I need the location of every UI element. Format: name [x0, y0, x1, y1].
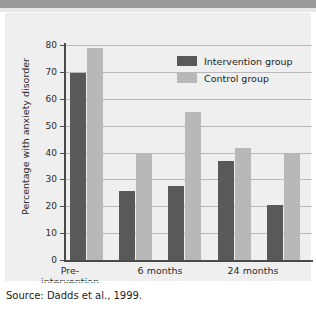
bar-control [235, 148, 251, 260]
legend: Intervention group Control group [177, 54, 293, 88]
legend-swatch-dark-icon [177, 56, 197, 66]
bar-control [284, 154, 300, 260]
chart-panel: 01020304050607080 Percentage with anxiet… [5, 13, 311, 281]
source-note: Source: Dadds et al., 1999. [6, 290, 142, 301]
source-divider [5, 281, 311, 282]
x-axis-label-line1: Pre- [27, 265, 113, 276]
bar-intervention [119, 191, 135, 260]
y-axis-tick-label: 60 [33, 95, 57, 104]
y-axis-tick-label: 70 [33, 68, 57, 77]
bar-control [185, 112, 201, 260]
x-axis-label-24-months: 24 months [210, 265, 296, 276]
header-band [0, 0, 316, 8]
x-axis-label-6-months: 6 months [117, 265, 203, 276]
x-axis-line [64, 260, 313, 262]
bar-intervention [267, 205, 283, 260]
bar-control [136, 153, 152, 261]
figure-root: 01020304050607080 Percentage with anxiet… [0, 0, 316, 309]
y-axis-title: Percentage with anxiety disorder [20, 37, 31, 237]
legend-item-control: Control group [177, 71, 293, 85]
y-axis-tick-label: 50 [33, 122, 57, 131]
y-axis-tick-label: 0 [33, 256, 57, 265]
legend-label-intervention: Intervention group [204, 56, 293, 67]
y-axis-tick-label: 40 [33, 149, 57, 158]
y-axis-tick-label: 10 [33, 229, 57, 238]
y-axis-tick-label: 30 [33, 175, 57, 184]
y-axis-tick-label: 20 [33, 202, 57, 211]
header-band-lower [0, 8, 316, 12]
bar-control [87, 48, 103, 260]
y-axis-tick-label: 80 [33, 41, 57, 50]
legend-swatch-light-icon [177, 73, 197, 83]
legend-item-intervention: Intervention group [177, 54, 293, 68]
legend-label-control: Control group [204, 73, 269, 84]
bar-intervention [218, 161, 234, 260]
bar-intervention [70, 73, 86, 260]
bar-intervention [168, 186, 184, 260]
bar-cluster [70, 45, 109, 260]
bar-cluster [119, 45, 158, 260]
